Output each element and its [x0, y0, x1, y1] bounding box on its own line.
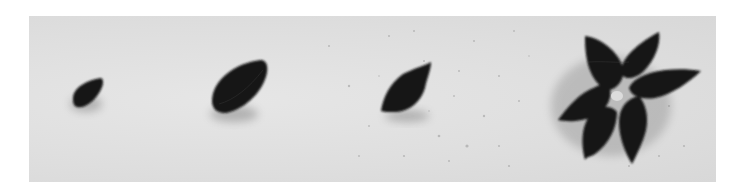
stage-five-petal-flower: [551, 32, 701, 164]
stage-pointed-petal: [381, 62, 431, 122]
stage-teardrop-blob: [70, 78, 103, 112]
clay-flower-photo: [29, 16, 716, 182]
stage-flattened-leaf: [210, 60, 267, 122]
photo-canvas: [29, 16, 716, 182]
flower-center-hole: [611, 91, 623, 101]
